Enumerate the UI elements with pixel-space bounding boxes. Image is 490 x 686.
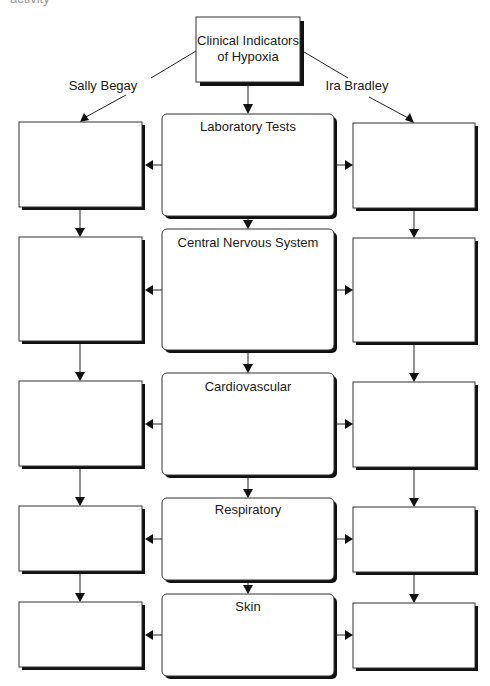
branch-line-left-lower xyxy=(84,95,126,118)
arrow-right-icon xyxy=(345,285,353,295)
arrow-left-icon xyxy=(145,160,153,170)
arrow-down-icon xyxy=(243,489,253,498)
arrow-left-icon xyxy=(145,630,153,640)
arrow-down-icon xyxy=(243,364,253,373)
arrow-down-icon xyxy=(75,497,85,506)
root-node-title-line2: of Hypoxia xyxy=(217,49,279,64)
root-node-title-line1: Clinical Indicators xyxy=(197,33,299,48)
arrow-right-icon xyxy=(345,160,353,170)
category-label: Central Nervous System xyxy=(178,235,319,250)
row-cardiovascular: Cardiovascular xyxy=(19,373,478,478)
category-label: Cardiovascular xyxy=(205,379,292,394)
ira-bradley-cns-box[interactable] xyxy=(353,238,475,342)
arrow-down-icon xyxy=(409,373,419,382)
arrow-down-icon xyxy=(243,104,253,114)
ira-bradley-respiratory-box[interactable] xyxy=(353,507,475,572)
row-respiratory: Respiratory xyxy=(19,498,478,583)
row-laboratory-tests: Laboratory Tests xyxy=(19,114,478,219)
arrow-down-icon xyxy=(405,113,414,123)
sally-begay-cardiovascular-box[interactable] xyxy=(19,381,142,466)
arrow-down-icon xyxy=(409,594,419,603)
category-label: Skin xyxy=(235,599,260,614)
sally-begay-respiratory-box[interactable] xyxy=(19,506,142,571)
arrow-down-icon xyxy=(243,220,253,229)
arrow-down-icon xyxy=(80,113,89,122)
arrow-right-icon xyxy=(345,534,353,544)
branch-connector-left: Sally Begay xyxy=(69,51,196,122)
branch-line-left-upper xyxy=(151,51,196,78)
branch-line-right-upper xyxy=(304,52,348,78)
arrow-down-icon xyxy=(75,372,85,381)
category-label: Laboratory Tests xyxy=(200,119,296,134)
hypoxia-concept-map: Clinical Indicators of Hypoxia Sally Beg… xyxy=(0,0,490,686)
ira-bradley-skin-box[interactable] xyxy=(353,603,475,668)
arrow-down-icon xyxy=(75,593,85,602)
root-to-lab-connector xyxy=(243,86,253,114)
arrow-down-icon xyxy=(243,585,253,594)
row-central-nervous-system: Central Nervous System xyxy=(19,229,478,353)
arrow-right-icon xyxy=(345,419,353,429)
row-skin: Skin xyxy=(19,594,478,679)
ira-bradley-cardiovascular-box[interactable] xyxy=(353,382,475,467)
branch-connector-right: Ira Bradley xyxy=(304,52,414,123)
root-node: Clinical Indicators of Hypoxia xyxy=(196,17,304,86)
arrow-right-icon xyxy=(345,630,353,640)
sally-begay-laboratory-tests-box[interactable] xyxy=(19,122,142,207)
category-label: Respiratory xyxy=(215,502,282,517)
arrow-left-icon xyxy=(145,534,153,544)
arrow-down-icon xyxy=(75,228,85,237)
arrow-left-icon xyxy=(145,285,153,295)
sally-begay-skin-box[interactable] xyxy=(19,602,142,667)
arrow-down-icon xyxy=(409,498,419,507)
branch-label-right: Ira Bradley xyxy=(326,78,389,93)
arrow-left-icon xyxy=(145,419,153,429)
ira-bradley-laboratory-tests-box[interactable] xyxy=(353,123,475,208)
branch-line-right-lower xyxy=(369,97,410,119)
branch-label-left: Sally Begay xyxy=(69,78,138,93)
sally-begay-cns-box[interactable] xyxy=(19,237,142,341)
arrow-down-icon xyxy=(409,229,419,238)
